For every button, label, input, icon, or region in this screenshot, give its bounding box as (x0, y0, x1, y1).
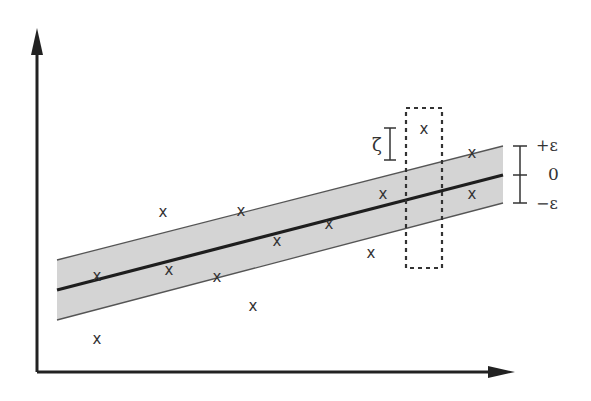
epsilon-bracket (513, 146, 527, 203)
data-point-marker: x (249, 297, 258, 315)
data-point-marker: x (379, 185, 388, 203)
zero-label: 0 (548, 166, 559, 183)
data-point-marker: x (237, 202, 246, 220)
data-point-marker: x (159, 203, 168, 221)
diagram-canvas: xxxxxxxxxxxxxx (0, 0, 591, 401)
data-point-marker: x (165, 261, 174, 279)
y-axis-arrowhead (31, 28, 43, 55)
plus-epsilon-label: +ε (536, 138, 558, 154)
data-point-marker: x (468, 144, 477, 162)
data-point-marker: x (93, 330, 102, 348)
data-point-marker: x (273, 232, 282, 250)
x-axis-arrowhead (488, 366, 515, 378)
zeta-slack-bracket (384, 128, 396, 160)
data-point-marker: x (420, 120, 429, 138)
svr-diagram: xxxxxxxxxxxxxx ζ +ε 0 −ε (0, 0, 591, 401)
minus-epsilon-label: −ε (536, 196, 558, 212)
data-point-marker: x (367, 244, 376, 262)
data-point-marker: x (213, 268, 222, 286)
data-point-marker: x (93, 267, 102, 285)
data-point-marker: x (325, 215, 334, 233)
data-point-marker: x (468, 185, 477, 203)
zeta-label: ζ (372, 136, 382, 154)
